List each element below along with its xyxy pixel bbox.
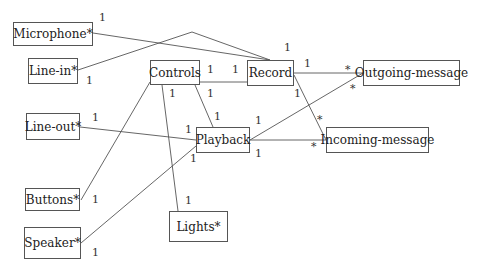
- edge-record-incoming-message: [294, 75, 326, 140]
- multiplicity-label: 1: [185, 195, 192, 206]
- class-box-microphone: Microphone*: [13, 22, 93, 46]
- multiplicity-label: 1: [185, 124, 192, 135]
- class-box-incoming-message: Incoming-message: [326, 127, 429, 153]
- multiplicity-label: 1: [207, 64, 214, 75]
- class-box-speaker: Speaker*: [24, 227, 81, 259]
- multiplicity-label: *: [311, 141, 317, 152]
- multiplicity-label: 1: [92, 112, 99, 123]
- class-box-buttons: Buttons*: [25, 188, 80, 211]
- multiplicity-label: 1: [169, 88, 176, 99]
- edge-controls-lights: [162, 85, 178, 211]
- class-box-outgoing-message: Outgoing-message: [363, 60, 460, 86]
- multiplicity-label: 1: [92, 247, 99, 258]
- class-box-playback: Playback: [196, 127, 250, 153]
- class-label: Incoming-message: [321, 133, 435, 147]
- edge-controls-buttons: [81, 82, 150, 200]
- multiplicity-label: *: [350, 83, 356, 94]
- multiplicity-label: 1: [294, 88, 301, 99]
- multiplicity-label: 1: [284, 42, 291, 53]
- multiplicity-label: 1: [86, 75, 93, 86]
- class-label: Outgoing-message: [355, 66, 468, 80]
- class-label: Record: [249, 66, 293, 80]
- multiplicity-label: *: [317, 114, 323, 125]
- class-label: Line-in*: [29, 64, 77, 78]
- class-box-record: Record: [247, 60, 294, 86]
- class-box-controls: Controls: [150, 60, 200, 85]
- class-label: Line-out*: [25, 120, 81, 134]
- class-box-lights: Lights*: [169, 211, 228, 242]
- multiplicity-label: 1: [232, 64, 239, 75]
- class-label: Speaker*: [24, 236, 80, 250]
- multiplicity-label: 1: [214, 111, 221, 122]
- multiplicity-label: 1: [190, 153, 197, 164]
- class-label: Microphone*: [13, 27, 92, 41]
- class-box-line-in: Line-in*: [28, 58, 78, 84]
- multiplicity-label: 1: [304, 58, 311, 69]
- class-box-line-out: Line-out*: [26, 113, 80, 140]
- class-label: Buttons*: [26, 193, 79, 207]
- class-label: Playback: [196, 133, 251, 147]
- class-label: Lights*: [176, 220, 220, 234]
- multiplicity-label: 1: [207, 88, 214, 99]
- multiplicity-label: 1: [99, 12, 106, 23]
- multiplicity-label: 1: [255, 115, 262, 126]
- multiplicity-label: 1: [92, 194, 99, 205]
- class-label: Controls: [149, 66, 201, 80]
- multiplicity-label: 1: [255, 148, 262, 159]
- edge-line-out-playback: [80, 127, 196, 140]
- multiplicity-label: *: [345, 64, 351, 75]
